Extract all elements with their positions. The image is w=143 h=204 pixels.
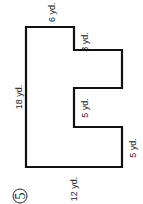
label-left-18yd: 18 yd. — [14, 85, 24, 110]
label-top-6yd: 6 yd. — [47, 2, 57, 22]
label-bottom-right-5yd: 5 yd. — [128, 138, 138, 158]
label-bottom-12yd: 12 yd. — [69, 177, 79, 202]
label-notch-5yd: 5 yd. — [80, 98, 90, 118]
composite-figure-diagram: 6 yd. 3 yd. 18 yd. 5 yd. 5 yd. 12 yd. 5 — [0, 0, 143, 204]
problem-number: 5 — [13, 193, 28, 200]
e-shaped-figure-outline — [26, 27, 122, 167]
label-step-3yd: 3 yd. — [80, 32, 90, 52]
problem-number-badge: 5 — [13, 189, 28, 203]
